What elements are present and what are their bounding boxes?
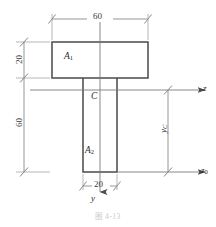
dim-label-web-height: 60 xyxy=(15,116,24,130)
dim-label-flange-thickness: 20 xyxy=(15,53,24,67)
area-label-flange-subscript: 1 xyxy=(70,54,73,61)
area-label-web-subscript: 2 xyxy=(91,148,94,155)
centroid-distance-letter: y xyxy=(158,129,168,133)
centroid-label: C xyxy=(91,92,97,102)
cross-section-drawing xyxy=(0,0,216,227)
centroid-distance-subscript: C xyxy=(161,125,168,129)
figure-container: 60 20 60 20 A1 A2 C z z0 y yC 图 4-13 xyxy=(0,0,216,227)
axis-label-z: z xyxy=(203,84,207,93)
axis-label-z0-subscript: 0 xyxy=(205,168,208,175)
area-label-web: A2 xyxy=(85,146,94,156)
axis-label-y: y xyxy=(91,194,95,203)
dim-label-web-width: 20 xyxy=(94,180,103,189)
dim-label-flange-width: 60 xyxy=(93,12,102,21)
axis-label-z0: z0 xyxy=(201,166,208,176)
figure-caption: 图 4-13 xyxy=(0,210,216,221)
area-label-flange: A1 xyxy=(64,52,73,62)
centroid-distance-label: yC xyxy=(159,118,169,140)
